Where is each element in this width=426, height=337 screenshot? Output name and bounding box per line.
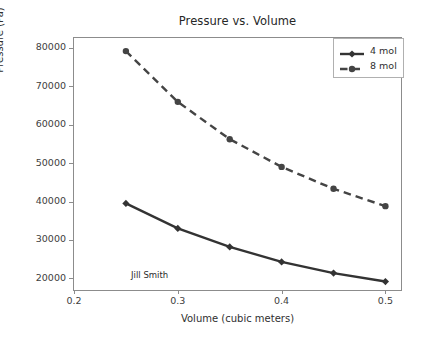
data-point-marker xyxy=(278,164,284,170)
data-point-marker xyxy=(278,258,285,265)
legend-item-2[interactable]: 8 mol xyxy=(339,58,397,73)
y-tick-mark xyxy=(69,86,73,87)
y-tick-mark xyxy=(69,125,73,126)
data-point-marker xyxy=(382,203,388,209)
y-tick-label: 30000 xyxy=(10,233,66,244)
legend-label: 8 mol xyxy=(370,60,397,71)
data-point-marker xyxy=(227,136,233,142)
legend-diamond-marker-icon xyxy=(339,45,365,57)
y-tick-label: 40000 xyxy=(10,195,66,206)
data-point-marker xyxy=(382,278,389,285)
x-tick-label: 0.5 xyxy=(365,295,405,306)
chart-title: Pressure vs. Volume xyxy=(73,14,402,28)
y-tick-mark xyxy=(69,240,73,241)
chart-figure: Pressure vs. Volume Pressure (Pa) Volume… xyxy=(0,0,426,337)
data-point-marker xyxy=(123,48,129,54)
legend-circle-marker-icon xyxy=(339,60,365,72)
data-point-marker xyxy=(330,186,336,192)
x-tick-label: 0.3 xyxy=(158,295,198,306)
legend-item-1[interactable]: 4 mol xyxy=(339,43,397,58)
legend-label: 4 mol xyxy=(370,45,397,56)
y-tick-label: 50000 xyxy=(10,157,66,168)
y-tick-label: 20000 xyxy=(10,272,66,283)
chart-annotation-jill-smith: Jill Smith xyxy=(131,270,168,280)
x-tick-label: 0.2 xyxy=(54,295,94,306)
y-tick-mark xyxy=(69,202,73,203)
data-point-marker xyxy=(330,269,337,276)
data-point-marker xyxy=(175,99,181,105)
chart-legend[interactable]: 4 mol8 mol xyxy=(333,38,404,78)
y-tick-mark xyxy=(69,48,73,49)
y-tick-label: 70000 xyxy=(10,80,66,91)
data-point-marker xyxy=(226,243,233,250)
y-tick-label: 60000 xyxy=(10,118,66,129)
y-tick-label: 80000 xyxy=(10,41,66,52)
y-tick-mark xyxy=(69,278,73,279)
y-tick-mark xyxy=(69,163,73,164)
x-tick-label: 0.4 xyxy=(262,295,302,306)
x-axis-label: Volume (cubic meters) xyxy=(73,313,402,324)
y-axis-label: Pressure (Pa) xyxy=(0,0,5,120)
